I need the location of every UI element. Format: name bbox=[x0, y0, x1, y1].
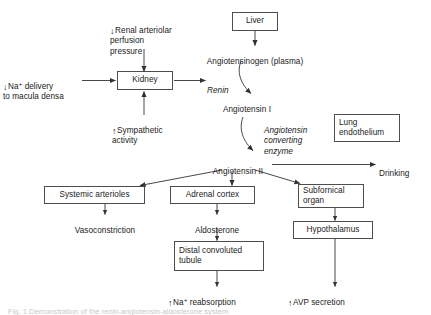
node-label: Angiotensinogen (plasma) bbox=[207, 57, 303, 66]
figure-caption: Fig. 1 Demonstration of the renin-angiot… bbox=[8, 307, 428, 315]
diagram-canvas: ↓Renal arteriolar perfusion pressure ↓Na… bbox=[0, 0, 431, 315]
edge-angiotensin-i-to-angiotensin-ii bbox=[241, 117, 253, 151]
node-label: Kidney bbox=[132, 75, 157, 85]
node-sympathetic-activity: ↑Sympathetic activity bbox=[112, 116, 202, 147]
up-arrow-icon: ↑ bbox=[112, 127, 117, 136]
node-angiotensinogen: Angiotensinogen (plasma) bbox=[197, 47, 313, 67]
node-na-delivery-macula-densa: ↓Na+ delivery to macula densa bbox=[3, 72, 87, 103]
node-label: Lung endothelium bbox=[339, 118, 384, 138]
node-systemic-arterioles: Systemic arterioles bbox=[44, 186, 145, 204]
node-label: Renal arteriolar perfusion pressure bbox=[110, 26, 172, 55]
node-renin: Renin bbox=[207, 76, 247, 96]
node-aldosterone: Aldosterone bbox=[174, 216, 260, 236]
node-label: Adrenal cortex bbox=[186, 190, 240, 200]
node-lung-endothelium: Lung endothelium bbox=[334, 114, 400, 142]
node-label: Angiotensin II bbox=[213, 167, 263, 176]
node-liver: Liver bbox=[232, 12, 278, 31]
node-angiotensin-converting-enzyme: Angiotensin converting enzyme bbox=[264, 116, 326, 157]
node-label: Systemic arterioles bbox=[59, 190, 129, 200]
node-angiotensin-ii: Angiotensin II bbox=[192, 157, 284, 177]
node-adrenal-cortex: Adrenal cortex bbox=[170, 186, 255, 204]
node-label: Angiotensin converting enzyme bbox=[264, 126, 307, 155]
node-label-pre: Na bbox=[8, 82, 19, 91]
down-arrow-icon: ↓ bbox=[110, 27, 115, 36]
node-label: Sympathetic activity bbox=[112, 126, 163, 145]
node-kidney: Kidney bbox=[117, 71, 173, 90]
node-renal-arteriolar-perfusion-pressure: ↓Renal arteriolar perfusion pressure bbox=[110, 16, 208, 57]
node-label: Subfornical organ bbox=[303, 186, 345, 206]
node-label: Aldosterone bbox=[195, 226, 239, 235]
node-na-reabsorption: ↑Na+ reabsorption bbox=[168, 288, 284, 308]
node-vasoconstriction: Vasoconstriction bbox=[48, 216, 162, 236]
node-label-pre: Na bbox=[173, 298, 184, 307]
node-subfornical-organ: Subfornical organ bbox=[298, 184, 364, 208]
node-label: Liver bbox=[246, 16, 264, 26]
node-label: Drinking bbox=[379, 169, 409, 178]
node-angiotensin-i: Angiotensin I bbox=[203, 95, 291, 115]
node-label: AVP secretion bbox=[293, 298, 345, 307]
down-arrow-icon: ↓ bbox=[3, 83, 8, 92]
node-avp-secretion: ↑AVP secretion bbox=[288, 288, 384, 308]
node-label: Vasoconstriction bbox=[75, 226, 135, 235]
node-drinking: Drinking bbox=[379, 159, 431, 179]
node-label: Angiotensin I bbox=[223, 105, 271, 114]
node-label: Hypothalamus bbox=[307, 225, 360, 235]
node-hypothalamus: Hypothalamus bbox=[293, 221, 373, 239]
node-distal-convoluted-tubule: Distal convoluted tubule bbox=[174, 241, 264, 271]
node-label-post: reabsorption bbox=[187, 298, 235, 307]
node-label: Renin bbox=[207, 86, 229, 95]
node-label: Distal convoluted tubule bbox=[179, 246, 242, 266]
